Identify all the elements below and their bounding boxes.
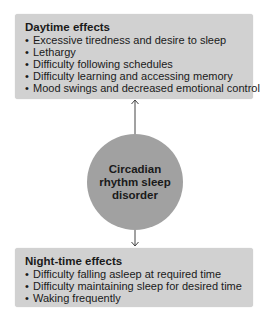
daytime-effect-item: Excessive tiredness and desire to sleep	[25, 34, 243, 46]
daytime-effects-list: Excessive tiredness and desire to sleep …	[25, 34, 243, 94]
nighttime-effect-item: Difficulty maintaining sleep for desired…	[25, 280, 243, 292]
daytime-effects-box: Daytime effects Excessive tiredness and …	[15, 14, 253, 99]
nighttime-effect-item: Difficulty falling asleep at required ti…	[25, 268, 243, 280]
nighttime-effect-item: Waking frequently	[25, 292, 243, 304]
center-node-circle: Circadian rhythm sleep disorder	[87, 134, 183, 230]
center-node-label: Circadian rhythm sleep disorder	[95, 163, 175, 202]
nighttime-effects-box: Night-time effects Difficulty falling as…	[15, 248, 253, 307]
daytime-effect-item: Lethargy	[25, 46, 243, 58]
nighttime-effects-title: Night-time effects	[25, 255, 243, 268]
daytime-effects-title: Daytime effects	[25, 21, 243, 34]
nighttime-effects-list: Difficulty falling asleep at required ti…	[25, 268, 243, 304]
daytime-effect-item: Mood swings and decreased emotional cont…	[25, 82, 243, 94]
daytime-effect-item: Difficulty learning and accessing memory	[25, 70, 243, 82]
daytime-effect-item: Difficulty following schedules	[25, 58, 243, 70]
